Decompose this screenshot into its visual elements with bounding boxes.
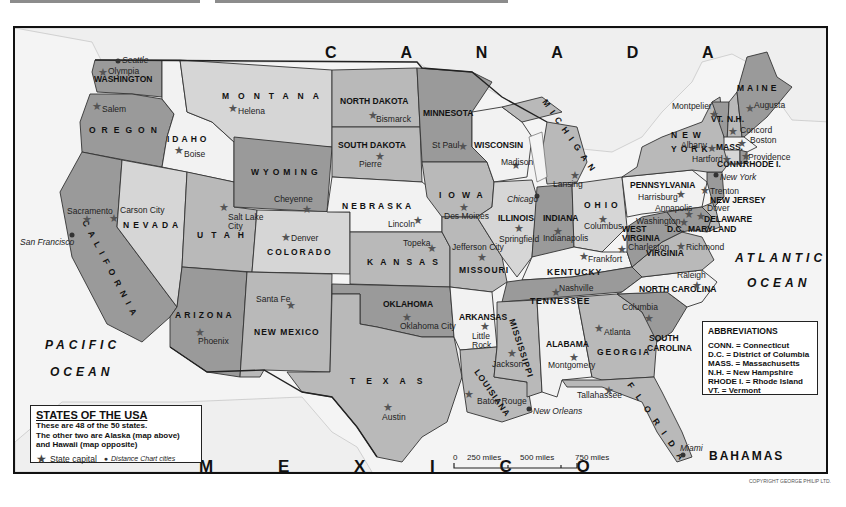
label-oklahoma: OKLAHOMA — [383, 299, 433, 309]
abbr-item: VT. = Vermont — [708, 386, 812, 395]
capital-denver: Denver — [291, 233, 319, 243]
label-nevada: NEVADA — [123, 220, 182, 230]
capital-atlanta: Atlanta — [604, 327, 631, 337]
capital-st-paul: St Paul — [432, 140, 460, 150]
city-new-orleans: New Orleans — [533, 406, 583, 416]
label-nebraska: NEBRASKA — [342, 201, 414, 211]
label-oregon: OREGON — [89, 125, 163, 135]
label-south-carolina: SOUTH — [649, 333, 679, 343]
label-ohio: OHIO — [584, 200, 622, 210]
label-south-carolina-2: CAROLINA — [647, 343, 692, 353]
label-montana: MONTANA — [222, 91, 328, 101]
star-icon: ★ — [477, 251, 487, 263]
star-icon: ★ — [228, 102, 238, 114]
label-new-york: NEW — [671, 130, 706, 140]
legend-keys: ★ State capital ● Distance Chart cities — [36, 452, 196, 466]
star-icon: ★ — [302, 203, 312, 215]
capital-indianapolis: Indianapolis — [543, 233, 588, 243]
label-arizona: ARIZONA — [175, 310, 235, 320]
abbr-item: N.H. = New Hampshire — [708, 368, 812, 377]
capital-columbia: Columbia — [622, 302, 658, 312]
capital-montpelier: Montpelier — [672, 101, 712, 111]
label-georgia: GEORGIA — [597, 347, 651, 357]
capital-little-rock: Rock — [472, 340, 492, 350]
label-alabama: ALABAMA — [546, 339, 589, 349]
capital-montgomery: Montgomery — [548, 360, 596, 370]
capital-columbus: Columbus — [584, 221, 622, 231]
city-chicago: Chicago — [507, 194, 538, 204]
capital-sacramento: Sacramento — [67, 206, 113, 216]
capital-jefferson-city: Jefferson City — [452, 242, 505, 252]
capital-helena: Helena — [238, 106, 265, 116]
capital-concord: Concord — [740, 125, 772, 135]
capital-cheyenne: Cheyenne — [274, 194, 313, 204]
capital-olympia: Olympia — [108, 66, 139, 76]
city-san-francisco: San Francisco — [20, 237, 75, 247]
label-kansas: KANSAS — [367, 257, 445, 267]
scale-bar: 0 250 miles 500 miles 750 miles — [453, 455, 629, 469]
star-icon: ★ — [700, 184, 710, 196]
capital-charleston: Charleston — [628, 242, 669, 252]
star-icon: ★ — [281, 231, 291, 243]
capital-oklahoma-city: Oklahoma City — [400, 321, 456, 331]
star-icon: ★ — [36, 452, 47, 466]
label-north-carolina: NORTH CAROLINA — [639, 284, 716, 294]
label-canada: C A N A D A — [325, 44, 744, 61]
label-new-mexico: NEW MEXICO — [254, 327, 320, 337]
label-delaware: DELAWARE — [704, 214, 753, 224]
legend-city-label: Distance Chart cities — [111, 455, 175, 462]
capital-lincoln: Lincoln — [388, 219, 415, 229]
capital-frankfort: Frankfort — [588, 254, 623, 264]
label-maine: MAINE — [737, 83, 779, 93]
star-icon: ★ — [98, 66, 108, 78]
capital-springfield: Springfield — [499, 234, 539, 244]
capital-baton-rouge: Baton Rouge — [477, 396, 527, 406]
label-utah: UTAH — [197, 230, 252, 240]
label-texas: TEXAS — [350, 376, 433, 386]
top-bar-left — [10, 0, 200, 3]
legend-line-3: and Hawaii (map opposite) — [36, 440, 196, 450]
label-north-dakota: NORTH DAKOTA — [340, 96, 408, 106]
city-seattle: Seattle — [122, 55, 149, 65]
star-icon: ★ — [594, 322, 604, 334]
state-new-mexico — [240, 272, 332, 377]
city-miami: Miami — [680, 443, 704, 453]
legend-line-2: The other two are Alaska (map above) — [36, 431, 196, 441]
city-dot-icon — [527, 407, 532, 412]
label-maryland: MARYLAND — [688, 224, 736, 234]
star-icon: ★ — [92, 100, 102, 112]
capital-tallahassee: Tallahassee — [577, 390, 622, 400]
capital-albany: Albany — [681, 140, 708, 150]
abbr-item: RHODE I. = Rhode Island — [708, 377, 812, 386]
capital-carson-city: Carson City — [120, 205, 165, 215]
capital-raleigh: Raleigh — [677, 270, 706, 280]
capital-jackson: Jackson — [492, 359, 523, 369]
capital-washington: Washington — [636, 216, 681, 226]
capital-trenton: Trenton — [710, 186, 739, 196]
label-indiana: INDIANA — [543, 213, 578, 223]
label-colorado: COLORADO — [267, 247, 333, 257]
capital-salem: Salem — [102, 104, 126, 114]
capital-nashville: Nashville — [559, 283, 594, 293]
capital-boise: Boise — [184, 149, 206, 159]
capital-boston: Boston — [750, 135, 777, 145]
capital-providence: Providence — [748, 152, 791, 162]
label-iowa: IOWA — [439, 190, 490, 200]
capital-austin: Austin — [382, 412, 406, 422]
legend-line-1: These are 48 of the 50 states. — [36, 421, 196, 431]
star-icon: ★ — [458, 140, 468, 152]
abbreviations-box: ABBREVIATIONS CONN. = Connecticut D.C. =… — [702, 321, 818, 395]
legend-capital-label: State capital — [50, 454, 97, 464]
abbr-item: CONN. = Connecticut — [708, 341, 812, 350]
capital-augusta: Augusta — [754, 100, 785, 110]
label-idaho: IDAHO — [167, 134, 209, 144]
star-icon: ★ — [644, 312, 654, 324]
city-dot-icon — [714, 173, 719, 178]
label-wyoming: WYOMING — [251, 167, 322, 177]
label-atlantic: ATLANTIC — [734, 251, 826, 265]
city-dot-icon — [681, 453, 686, 458]
legend-box: STATES OF THE USA These are 48 of the 50… — [30, 405, 202, 463]
star-icon: ★ — [507, 347, 517, 359]
label-atlantic-ocean: OCEAN — [747, 276, 810, 290]
star-icon: ★ — [514, 222, 524, 234]
